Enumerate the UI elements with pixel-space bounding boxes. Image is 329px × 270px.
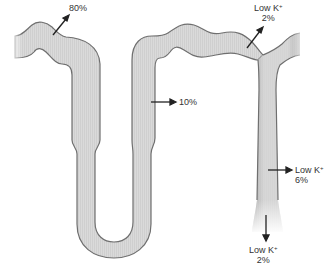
tubule-loop bbox=[15, 22, 263, 258]
label-loop-value: 10% bbox=[179, 97, 197, 107]
label-collecting-sup: + bbox=[320, 165, 324, 171]
label-distal-value: 2% bbox=[254, 13, 283, 23]
label-distal: Low K+ 2% bbox=[254, 3, 283, 23]
label-urine-prefix: Low K bbox=[249, 245, 274, 255]
label-urine-value: 2% bbox=[249, 255, 278, 265]
label-collecting-prefix: Low K bbox=[295, 165, 320, 175]
nephron-diagram bbox=[0, 0, 329, 270]
arrow-proximal bbox=[53, 15, 69, 35]
label-distal-prefix: Low K bbox=[254, 3, 279, 13]
label-distal-sup: + bbox=[279, 3, 283, 9]
label-collecting-value: 6% bbox=[295, 175, 324, 185]
label-proximal-value: 80% bbox=[69, 3, 87, 13]
label-urine-sup: + bbox=[274, 245, 278, 251]
label-loop: 10% bbox=[179, 97, 197, 107]
label-collecting: Low K+ 6% bbox=[295, 165, 324, 185]
label-proximal: 80% bbox=[69, 3, 87, 13]
label-urine: Low K+ 2% bbox=[249, 245, 278, 265]
